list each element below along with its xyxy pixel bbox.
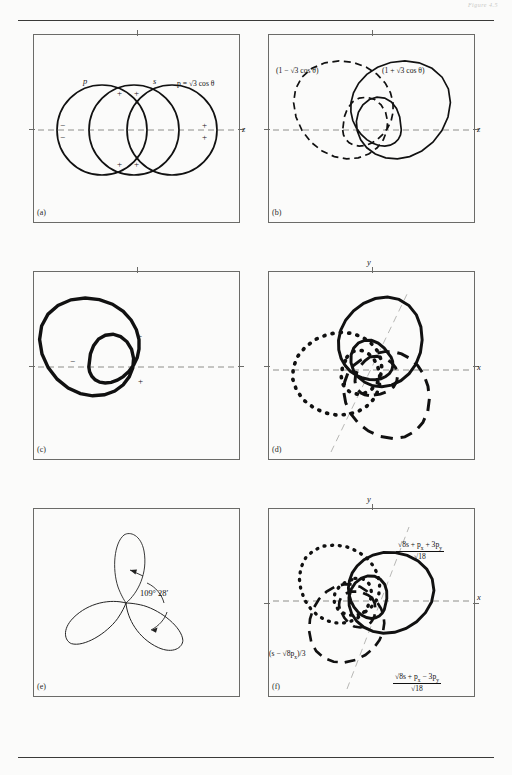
panel-b-tick-top (372, 30, 373, 36)
formula-bottom-num: √8s + p (395, 672, 418, 681)
panel-f-formula-bottom: √8s + px − 3py √18 (393, 672, 441, 694)
panel-a-equation: p = √3 cos θ (177, 79, 214, 88)
panel-b-label-left: (1 − √3 cos θ) (276, 66, 318, 75)
panel-a-plus-right-2: + (202, 132, 207, 142)
formula-top-mid: + 3p (424, 540, 440, 549)
panel-b: (1 − √3 cos θ) (1 + √3 cos θ) (268, 34, 475, 223)
panel-f-plot (269, 509, 474, 696)
panel-f-formula-top: √8s + px + 3py √18 (396, 540, 444, 562)
panel-a-plus-bot-1: + (117, 159, 122, 169)
formula-bottom-den: √18 (393, 684, 441, 694)
panel-f: √8s + px + 3py √18 (s − √8px)/3 √8s + px… (268, 508, 475, 697)
panel-e-angle-label: 109° 28′ (140, 589, 168, 598)
panel-e-plot (34, 509, 239, 696)
formula-top-sub2: y (439, 545, 442, 551)
panel-a-plus-top-1: + (117, 88, 122, 98)
panel-c-plus-bottom: + (138, 376, 143, 386)
panel-b-tick-left (264, 129, 270, 130)
panel-c: + + − (33, 271, 240, 460)
panel-c-tick-top (137, 267, 138, 273)
panel-b-label-right: (1 + √3 cos θ) (382, 66, 424, 75)
bottom-rule (18, 757, 494, 758)
panel-a: − − + + + + + + p s p = √3 cos θ (33, 34, 240, 223)
panel-f-tick-top (372, 504, 373, 510)
panel-a-plus-right-1: + (202, 120, 207, 130)
panel-f-axis-y: y (367, 494, 371, 504)
panel-c-minus: − (70, 356, 75, 366)
panel-c-tick-left (29, 366, 35, 367)
panel-a-tick-top (137, 30, 138, 36)
running-head: Figure 4.5 (468, 2, 498, 8)
panel-d-tick-left (264, 366, 270, 367)
formula-left-end: )/3 (297, 649, 305, 658)
panel-d-tick-top (372, 267, 373, 273)
panel-a-tick-left (29, 129, 35, 130)
formula-left-main: (s − √8p (269, 649, 294, 658)
panel-a-caption: (a) (37, 208, 46, 217)
panel-d (268, 271, 475, 460)
panel-b-plot (269, 35, 474, 222)
panel-f-formula-left: (s − √8px)/3 (269, 649, 306, 660)
panel-c-plot (34, 272, 239, 459)
panel-f-tick-right (473, 603, 479, 604)
panel-f-axis-x: x (477, 592, 481, 602)
formula-top-num: √8s + p (398, 540, 421, 549)
formula-top-den: √18 (396, 552, 444, 562)
panel-c-caption: (c) (37, 445, 46, 454)
panel-d-plot (269, 272, 474, 459)
panel-a-axis-z: z (242, 124, 245, 134)
panel-b-axis-z: z (477, 124, 480, 134)
panel-e: 109° 28′ (33, 508, 240, 697)
formula-bottom-sub2: y (436, 677, 439, 683)
panel-d-axis-x: x (477, 362, 481, 372)
panel-a-minus-2: − (60, 132, 65, 142)
panel-a-minus-1: − (60, 120, 65, 130)
panel-a-plus-top-2: + (134, 88, 139, 98)
panel-c-plus-top: + (137, 331, 142, 341)
panel-e-caption: (e) (37, 682, 46, 691)
panel-c-tick-right (238, 366, 244, 367)
panel-a-label-p: p (83, 76, 87, 86)
panel-a-label-s: s (153, 76, 156, 86)
top-rule (18, 20, 494, 21)
formula-bottom-mid: − 3p (421, 672, 437, 681)
panel-b-caption: (b) (272, 208, 281, 217)
panel-f-caption: (f) (272, 682, 280, 691)
panel-d-caption: (d) (272, 445, 281, 454)
panel-d-axis-y: y (367, 257, 371, 267)
panel-f-tick-left (264, 603, 270, 604)
figure-page: Figure 4.5 − − + + + + + + p s p = √3 co… (0, 0, 512, 775)
panel-a-plus-bot-2: + (134, 159, 139, 169)
